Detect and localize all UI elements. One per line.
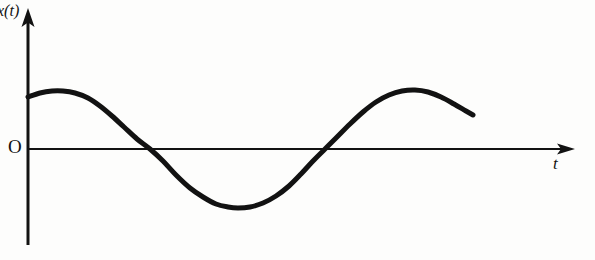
x-axis-label: t <box>553 154 558 174</box>
origin-label: O <box>8 136 22 158</box>
plot-svg <box>0 0 595 260</box>
figure-canvas: x(t) O t <box>0 0 595 260</box>
y-axis-label: x(t) <box>0 2 19 20</box>
